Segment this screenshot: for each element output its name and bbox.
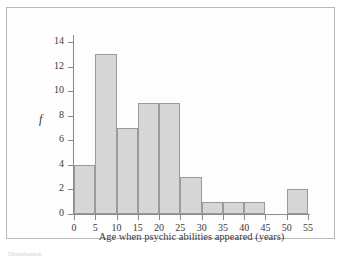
x-axis-title: Age when psychic abilities appeared (yea… <box>73 230 310 243</box>
histogram-bar <box>138 103 159 214</box>
y-axis-tick-label: 12 <box>54 60 64 72</box>
figure-frame: f 02468101214 0510152025303540455055 Age… <box>6 7 335 239</box>
histogram-bar <box>95 54 116 214</box>
caption-fragment: Distribution <box>8 250 128 259</box>
y-axis-tick-label: 8 <box>59 109 64 121</box>
x-axis-line <box>73 214 310 215</box>
y-axis-tick-label: 6 <box>59 133 64 145</box>
x-axis-tick: 25 <box>180 215 181 220</box>
histogram-bar <box>74 165 95 214</box>
y-axis-tick-label: 10 <box>54 84 64 96</box>
x-axis-tick: 40 <box>244 215 245 220</box>
x-axis-tick: 5 <box>95 215 96 220</box>
y-axis-tick: 6 <box>68 140 73 141</box>
histogram-plot-area: 02468101214 0510152025303540455055 <box>73 35 310 215</box>
y-axis-tick: 10 <box>68 91 73 92</box>
x-axis-tick: 10 <box>117 215 118 220</box>
y-axis-tick: 14 <box>68 42 73 43</box>
x-axis-tick: 55 <box>308 215 309 220</box>
y-axis-tick: 8 <box>68 116 73 117</box>
histogram-bar <box>180 177 201 214</box>
x-axis-tick: 30 <box>202 215 203 220</box>
x-axis-tick: 0 <box>74 215 75 220</box>
x-axis-tick: 20 <box>159 215 160 220</box>
y-axis-tick-label: 2 <box>59 182 64 194</box>
y-axis-tick-label: 4 <box>59 158 64 170</box>
y-axis-tick: 12 <box>68 67 73 68</box>
x-axis-tick: 15 <box>138 215 139 220</box>
y-axis-tick-label: 14 <box>54 35 64 47</box>
histogram-bar <box>202 202 223 214</box>
histogram-bar <box>223 202 244 214</box>
x-axis-tick: 35 <box>223 215 224 220</box>
x-axis-tick: 45 <box>265 215 266 220</box>
y-axis-title: f <box>39 112 42 127</box>
y-axis-tick: 2 <box>68 189 73 190</box>
histogram-bar <box>244 202 265 214</box>
histogram-bar <box>159 103 180 214</box>
y-axis-tick: 0 <box>68 214 73 215</box>
x-axis-tick: 50 <box>287 215 288 220</box>
y-axis-tick: 4 <box>68 165 73 166</box>
histogram-bar <box>117 128 138 214</box>
y-axis-tick-label: 0 <box>59 207 64 219</box>
histogram-bar <box>287 189 308 214</box>
